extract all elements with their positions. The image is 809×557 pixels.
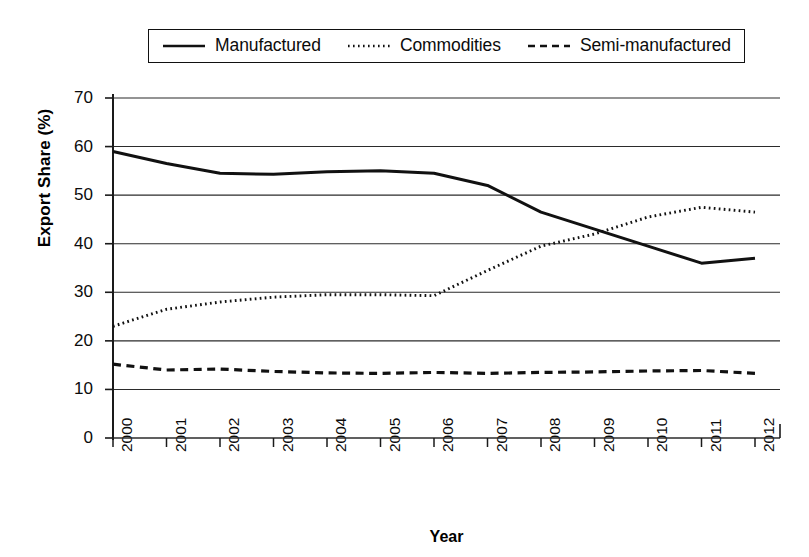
plot-area (0, 0, 809, 557)
series-line-commodities (113, 207, 755, 326)
series-line-semi-manufactured (113, 364, 755, 373)
export-share-line-chart: Manufactured Commodities Semi-manufactur… (0, 0, 809, 557)
series-line-manufactured (113, 151, 755, 263)
